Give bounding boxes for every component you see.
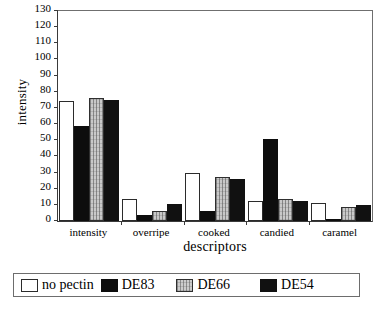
y-tick-label: 70 (40, 100, 51, 111)
x-axis-title: descriptors (57, 239, 373, 255)
y-tick-label: 120 (35, 19, 52, 30)
bar-group (246, 11, 309, 221)
legend-swatch-icon (21, 279, 38, 292)
y-tick-label: 0 (46, 213, 52, 224)
legend-item[interactable]: no pectin (21, 278, 94, 292)
chart-legend: no pectinDE83DE66DE54 (13, 273, 360, 297)
y-tick-label: 100 (35, 51, 52, 62)
y-tick-label: 90 (40, 68, 51, 79)
x-tick-mark (246, 221, 247, 225)
legend-swatch-icon (176, 279, 193, 292)
legend-label: no pectin (42, 278, 94, 292)
bar-group (309, 11, 372, 221)
bar[interactable] (326, 219, 341, 221)
bar-group (184, 11, 247, 221)
bar[interactable] (230, 179, 245, 221)
y-tick-label: 80 (40, 84, 51, 95)
legend-item[interactable]: DE54 (260, 278, 314, 292)
x-tick-label: overripe (120, 226, 183, 238)
bar[interactable] (89, 98, 104, 221)
x-tick-label: intensity (57, 226, 120, 238)
y-tick-label: 110 (35, 35, 51, 46)
bar[interactable] (59, 101, 74, 221)
bar[interactable] (278, 199, 293, 221)
bar[interactable] (122, 199, 137, 221)
bar-group (121, 11, 184, 221)
bar[interactable] (167, 204, 182, 221)
bar-group-bars (121, 11, 184, 221)
bar[interactable] (152, 211, 167, 222)
legend-label: DE66 (197, 278, 230, 292)
y-tick-label: 40 (40, 148, 51, 159)
y-tick-label: 20 (40, 181, 51, 192)
legend-swatch-icon (260, 279, 277, 292)
y-tick-label: 10 (40, 197, 51, 208)
bar-group-bars (58, 11, 121, 221)
bar[interactable] (293, 201, 308, 221)
legend-item[interactable]: DE83 (101, 278, 155, 292)
bar[interactable] (263, 139, 278, 221)
y-tick-label: 50 (40, 132, 51, 143)
x-tick-label: cooked (183, 226, 246, 238)
plot-area: 0102030405060708090100110120130 (57, 10, 373, 222)
y-tick-label: 30 (40, 165, 51, 176)
x-tick-label: caramel (308, 226, 371, 238)
bar[interactable] (215, 177, 230, 221)
x-tick-mark (184, 221, 185, 225)
y-tick-label: 130 (35, 3, 52, 14)
y-axis-title: intensity (14, 47, 30, 157)
bar-group-bars (246, 11, 309, 221)
bar-chart-figure: intensity 010203040506070809010011012013… (0, 0, 383, 311)
bar[interactable] (311, 203, 326, 221)
bar[interactable] (341, 207, 356, 221)
legend-swatch-icon (101, 279, 118, 292)
x-tick-mark (309, 221, 310, 225)
bar-group (58, 11, 121, 221)
bar[interactable] (74, 126, 89, 221)
legend-item[interactable]: DE66 (176, 278, 230, 292)
bar[interactable] (356, 205, 371, 221)
legend-label: DE83 (122, 278, 155, 292)
x-tick-label: candied (245, 226, 308, 238)
bars-container: 0102030405060708090100110120130 (58, 11, 372, 221)
bar[interactable] (137, 215, 152, 221)
bar[interactable] (104, 100, 119, 221)
bar-group-bars (309, 11, 372, 221)
bar[interactable] (185, 173, 200, 221)
bar[interactable] (200, 211, 215, 221)
bar-group-bars (184, 11, 247, 221)
legend-label: DE54 (281, 278, 314, 292)
x-tick-mark (121, 221, 122, 225)
y-tick-label: 60 (40, 116, 51, 127)
bar[interactable] (248, 201, 263, 221)
